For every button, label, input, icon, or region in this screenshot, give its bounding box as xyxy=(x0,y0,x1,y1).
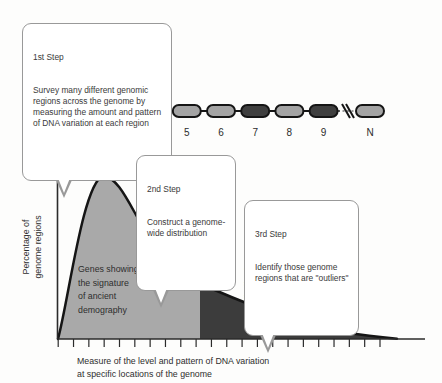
genomic-region-capsule xyxy=(173,105,201,117)
genomic-region-capsule xyxy=(356,105,384,117)
genomic-region-capsule xyxy=(310,105,338,117)
step3-body: Identify those genome regions that are "… xyxy=(255,262,348,284)
genomic-region-capsule xyxy=(275,105,303,117)
region-label: 5 xyxy=(184,127,190,138)
region-label: 6 xyxy=(218,127,224,138)
region-label: 8 xyxy=(287,127,293,138)
step1-body: Survey many different genomic regions ac… xyxy=(33,85,161,129)
genomic-region-capsule xyxy=(207,105,235,117)
x-ticks-group xyxy=(58,339,380,347)
genomic-region-capsule xyxy=(241,105,269,117)
step3-callout: 3rd Step Identify those genome regions t… xyxy=(244,200,359,336)
demography-label: Genes showing the signature of ancient d… xyxy=(78,263,139,317)
region-label: N xyxy=(366,127,373,138)
y-axis-label: Percentage of genome regions xyxy=(20,187,50,307)
step1-title: 1st Step xyxy=(33,52,161,63)
step2-title: 2nd Step xyxy=(147,184,225,195)
step2-body: Construct a genome- wide distribution xyxy=(147,217,225,239)
region-label: 7 xyxy=(252,127,258,138)
step2-callout: 2nd Step Construct a genome- wide distri… xyxy=(136,155,236,291)
x-axis-label: Measure of the level and pattern of DNA … xyxy=(77,355,269,381)
step3-title: 3rd Step xyxy=(255,229,348,240)
region-label: 9 xyxy=(321,127,327,138)
genome-scan-diagram: 1st Step Survey many different genomic r… xyxy=(0,0,442,383)
